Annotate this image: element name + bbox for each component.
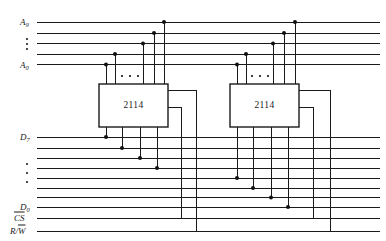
right-chip-data-junctions: [235, 176, 290, 209]
label-address-top: A9: [20, 18, 29, 27]
ellipsis-dot: [259, 75, 261, 77]
ellipsis-dot: [26, 172, 28, 174]
left-chip-data-junctions: [104, 135, 159, 170]
chip-select-text: CS: [14, 213, 25, 223]
junction-dot: [235, 63, 239, 67]
right-chip-address-ellipsis: [251, 75, 269, 77]
right-cs-wire: [299, 107, 313, 218]
control-bus-lines: [37, 218, 380, 231]
ellipsis-dot: [26, 38, 28, 40]
left-rw-wire: [168, 90, 196, 231]
ellipsis-dot: [26, 181, 28, 183]
schematic-canvas: 2114 2114 A9 A0 D7 D0 CS R/W: [0, 0, 386, 241]
ellipsis-dot: [137, 75, 139, 77]
label-data-top: D7: [20, 133, 30, 142]
label-address-bottom: A0: [20, 60, 29, 69]
left-chip-address-ellipsis: [121, 75, 139, 77]
ellipsis-dot: [251, 75, 253, 77]
label-data-bottom: D0: [20, 203, 30, 212]
junction-dot: [293, 20, 297, 24]
junction-dot: [271, 42, 275, 46]
right-chip-control-wires: [299, 90, 330, 231]
junction-dot: [162, 20, 166, 24]
ellipsis-dot: [121, 75, 123, 77]
junction-dot: [120, 146, 124, 150]
junction-dot: [269, 196, 273, 200]
junction-dot: [286, 205, 290, 209]
ellipsis-dot: [26, 163, 28, 165]
junction-dot: [141, 42, 145, 46]
left-chip-control-wires: [168, 90, 196, 231]
ellipsis-dot: [129, 75, 131, 77]
label-chip-select: CS: [14, 214, 25, 223]
junction-dot: [104, 135, 108, 139]
junction-dot: [251, 186, 255, 190]
circuit-schematic: 2114 2114: [0, 0, 386, 241]
chip-right-label: 2114: [254, 100, 274, 110]
ellipsis-dot: [267, 75, 269, 77]
left-cs-wire: [168, 107, 181, 218]
junction-dot: [138, 156, 142, 160]
junction-dot: [282, 31, 286, 35]
right-rw-wire: [299, 90, 330, 231]
address-vertical-ellipsis: [26, 38, 28, 50]
label-read-write: R/W: [10, 227, 26, 236]
junction-dot: [244, 52, 248, 56]
address-bus-lines: [37, 22, 380, 65]
junction-dot: [152, 31, 156, 35]
ellipsis-dot: [26, 48, 28, 50]
junction-dot: [235, 176, 239, 180]
ellipsis-dot: [26, 43, 28, 45]
chip-left-label: 2114: [123, 100, 143, 110]
right-chip-data-wires: [237, 127, 288, 207]
junction-dot: [113, 52, 117, 56]
junction-dot: [155, 166, 159, 170]
junction-dot: [104, 63, 108, 67]
data-bus-lines: [37, 137, 380, 207]
data-vertical-ellipsis: [26, 163, 28, 183]
